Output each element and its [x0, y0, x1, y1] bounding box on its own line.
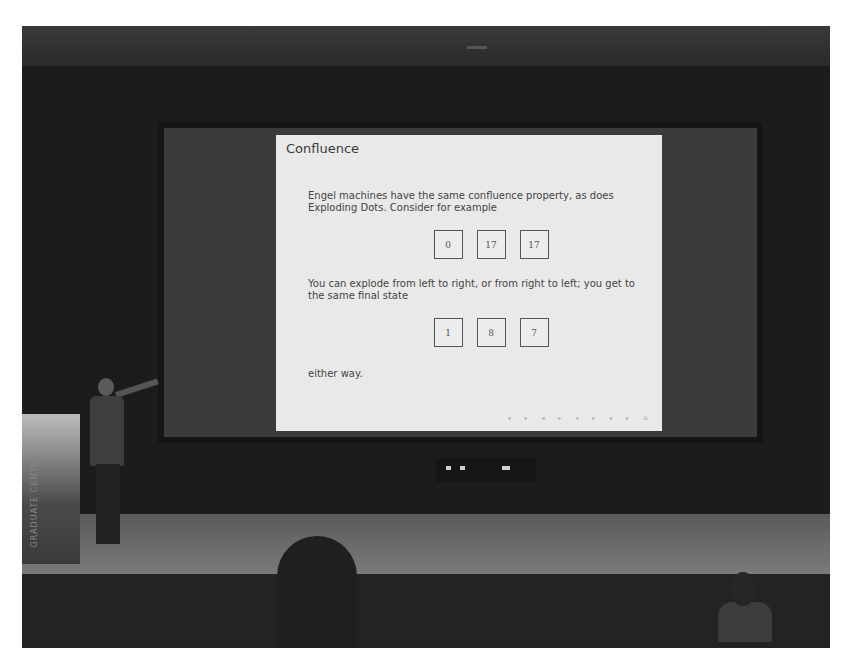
- slide-paragraph-1: Engel machines have the same confluence …: [308, 190, 648, 214]
- speaker-legs: [96, 464, 120, 544]
- initial-state-boxes: 0 17 17: [298, 230, 684, 259]
- state-box: 0: [434, 230, 463, 259]
- slide: Confluence Engel machines have the same …: [276, 135, 662, 431]
- beamer-navigation-icons: ◂ ▸ ◂ ▸ ◂ ▸ ◂ ▸ ≡: [508, 414, 654, 421]
- audience-member-head: [277, 536, 357, 648]
- podium: GRADUATE CENTER: [22, 414, 80, 564]
- slide-title: Confluence: [286, 141, 359, 156]
- projection-screen: Confluence Engel machines have the same …: [164, 128, 757, 437]
- indicator-light-icon: [446, 466, 451, 470]
- final-state-boxes: 1 8 7: [298, 318, 684, 347]
- state-box: 1: [434, 318, 463, 347]
- audience-member-body: [718, 602, 772, 642]
- ceiling: [22, 26, 830, 66]
- speaker-body: [90, 396, 124, 466]
- audience-area: [22, 574, 830, 648]
- slide-paragraph-3: either way.: [308, 368, 648, 380]
- ceiling-fixture: [467, 46, 487, 49]
- indicator-light-icon: [502, 466, 510, 470]
- state-box: 17: [477, 230, 506, 259]
- speaker-head: [98, 378, 114, 396]
- stage-equipment: [436, 458, 536, 482]
- speaker: [86, 378, 132, 548]
- indicator-light-icon: [460, 466, 465, 470]
- state-box: 17: [520, 230, 549, 259]
- podium-label: GRADUATE CENTER: [30, 454, 39, 547]
- lecture-photo: Confluence Engel machines have the same …: [22, 26, 830, 648]
- slide-paragraph-2: You can explode from left to right, or f…: [308, 278, 648, 302]
- stage-floor: [22, 514, 830, 574]
- state-box: 8: [477, 318, 506, 347]
- state-box: 7: [520, 318, 549, 347]
- audience-member-head: [730, 572, 756, 606]
